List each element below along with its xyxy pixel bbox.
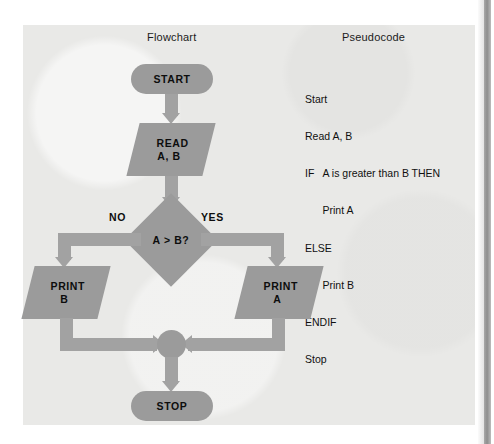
flow-node-print-b-label-line2: B [60, 293, 68, 306]
flow-node-print-b-label-line1: PRINT [50, 280, 85, 293]
flow-node-read-label-line2: A, B [158, 150, 181, 163]
flow-node-stop: STOP [131, 391, 213, 421]
flow-node-print-b: PRINT B [21, 266, 110, 319]
connector-merge-to-stop-line [165, 357, 178, 384]
page-edge-strip [484, 0, 491, 444]
flow-node-decision: A > B? [138, 207, 204, 273]
pseudocode-line-endif: ENDIF [305, 316, 440, 328]
pseudocode-line-stop: Stop [305, 353, 440, 365]
flow-node-merge-junction [157, 330, 186, 359]
flow-node-read-label-line1: READ [156, 137, 188, 150]
flow-node-decision-label: A > B? [138, 207, 204, 273]
connector-printa-to-merge-horizontal [188, 338, 285, 351]
flow-node-start-label: START [153, 73, 190, 86]
connector-printb-to-merge-horizontal [60, 338, 157, 351]
flow-node-read: READ A, B [126, 123, 215, 176]
branch-label-yes: YES [201, 211, 224, 223]
branch-label-no: NO [109, 211, 126, 223]
pseudocode-line-print-b: Print B [305, 279, 440, 291]
pseudocode-line-print-a: Print A [305, 204, 440, 216]
pseudocode-line-read: Read A, B [305, 130, 440, 142]
flowchart-column-title: Flowchart [147, 31, 196, 43]
flow-node-print-a-label-line1: PRINT [263, 280, 298, 293]
flow-node-print-a: PRINT A [234, 266, 323, 319]
figure-canvas: Flowchart Pseudocode Start Read A, B IF … [0, 0, 494, 444]
pseudocode-line-start: Start [305, 93, 440, 105]
connector-no-vertical [58, 233, 71, 260]
flow-node-print-a-label-line2: A [273, 293, 281, 306]
pseudocode-line-else: ELSE [305, 242, 440, 254]
pseudocode-line-if: IF A is greater than B THEN [305, 167, 440, 179]
flow-node-start: START [131, 64, 213, 94]
connector-yes-vertical [271, 233, 284, 260]
flow-node-stop-label: STOP [157, 400, 188, 413]
pseudocode-column-title: Pseudocode [342, 31, 405, 43]
pseudocode-listing: Start Read A, B IF A is greater than B T… [305, 68, 440, 391]
